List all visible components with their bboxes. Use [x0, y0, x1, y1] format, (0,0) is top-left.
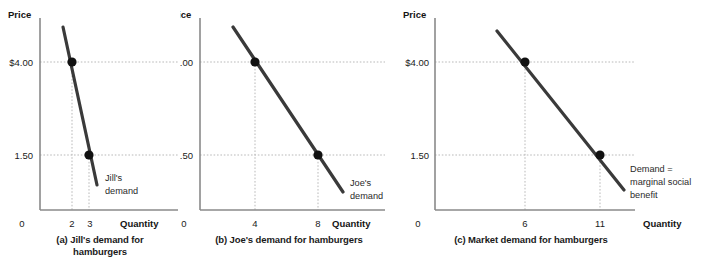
y-tick-150: 1.50: [411, 150, 430, 161]
x-tick-2: 2: [69, 218, 74, 229]
panel-b-plot: Price Quantity $4.00 1.50 4 8 0 Joe's de…: [180, 0, 420, 240]
panel-c-caption-line1: (c) Market demand for hamburgers: [416, 234, 646, 246]
x-axis-label: Quantity: [332, 218, 371, 229]
demand-curve-jill: [63, 27, 97, 185]
y-tick-400: $4.00: [405, 57, 429, 68]
y-tick-400: $4.00: [180, 57, 193, 68]
origin-label: 0: [19, 218, 24, 229]
x-tick-11: 11: [595, 218, 605, 229]
annotation-jills-line1: Jill's: [105, 173, 122, 183]
x-axis-label: Quantity: [120, 218, 159, 229]
panel-a-caption-line1: (a) Jill's demand for: [0, 234, 200, 246]
panel-b-joes-demand: Price Quantity $4.00 1.50 4 8 0 Joe's de…: [180, 0, 420, 265]
panel-b-caption: (b) Joe's demand for hamburgers: [174, 234, 404, 246]
panel-c-market-demand: Price Quantity $4.00 1.50 6 11 0 Demand …: [400, 0, 706, 265]
data-point-q4-p400: [250, 57, 259, 66]
y-axis-label: Price: [8, 9, 31, 20]
demand-curve-joe: [233, 27, 343, 192]
x-tick-6: 6: [522, 218, 527, 229]
annotation-market-line2: marginal social: [630, 177, 691, 187]
y-tick-150: 1.50: [180, 150, 193, 161]
annotation-market-line1: Demand =: [630, 164, 673, 174]
panel-c-plot: Price Quantity $4.00 1.50 6 11 0 Demand …: [400, 0, 706, 240]
x-tick-3: 3: [87, 218, 92, 229]
y-axis-label: Price: [403, 9, 426, 20]
demand-curves-figure: Price Quantity $4.00 1.50 2 3 0 Jill's d…: [0, 0, 706, 265]
origin-label: 0: [181, 218, 186, 229]
annotation-jills-line2: demand: [105, 186, 138, 196]
origin-label: 0: [415, 218, 420, 229]
annotation-joes-line1: Joe's: [350, 178, 372, 188]
x-tick-8: 8: [315, 218, 320, 229]
y-tick-400: $4.00: [9, 57, 33, 68]
data-point-q8-p150: [313, 150, 322, 159]
panel-c-caption: (c) Market demand for hamburgers: [416, 234, 646, 246]
y-tick-150: 1.50: [15, 150, 34, 161]
panel-a-caption: (a) Jill's demand for hamburgers: [0, 234, 200, 258]
data-point-q11-p150: [595, 150, 604, 159]
annotation-joes-line2: demand: [350, 191, 383, 201]
x-tick-4: 4: [252, 218, 257, 229]
demand-curve-market: [497, 31, 624, 190]
data-point-q3-p150: [84, 150, 93, 159]
panel-b-caption-line1: (b) Joe's demand for hamburgers: [174, 234, 404, 246]
data-point-q6-p400: [520, 57, 529, 66]
y-axis-label: Price: [180, 9, 191, 20]
x-axis-label: Quantity: [643, 218, 682, 229]
annotation-market-line3: benefit: [630, 190, 658, 200]
panel-a-caption-line2: hamburgers: [0, 246, 200, 258]
data-point-q2-p400: [67, 57, 76, 66]
